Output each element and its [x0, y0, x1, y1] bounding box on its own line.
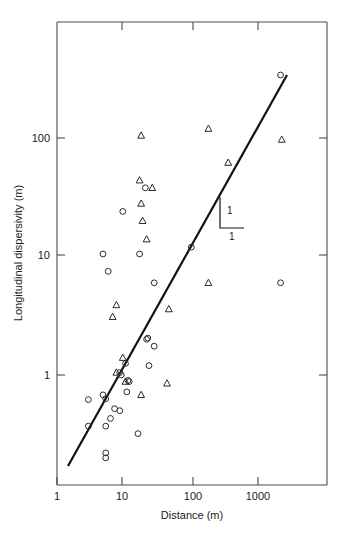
y-tick-label-1: 1 — [44, 369, 50, 381]
data-point-circle — [278, 72, 284, 78]
data-point-triangle — [278, 136, 285, 142]
scatter-plot: 1 10 100 1000 1 10 100 Distance (m) Long… — [0, 0, 344, 542]
data-point-circle — [146, 363, 152, 369]
data-point-triangle — [165, 305, 172, 311]
data-point-circle — [137, 251, 143, 257]
y-axis-ticks — [57, 138, 327, 375]
data-point-circle — [103, 423, 109, 429]
data-point-triangle — [164, 380, 171, 386]
data-point-triangle — [113, 301, 120, 307]
y-axis-title: Longitudinal dispersivity (m) — [12, 185, 24, 321]
data-point-circle — [142, 185, 148, 191]
data-point-circle — [85, 397, 91, 403]
data-point-triangle — [149, 184, 156, 190]
data-point-circle — [108, 416, 114, 422]
data-point-circle — [135, 431, 141, 437]
data-point-triangle — [138, 200, 145, 206]
data-point-circle — [100, 251, 106, 257]
data-point-triangle — [138, 132, 145, 138]
y-tick-label-100: 100 — [32, 132, 50, 144]
data-point-triangle — [139, 217, 146, 223]
figure-container: 1 10 100 1000 1 10 100 Distance (m) Long… — [0, 0, 344, 542]
data-point-circle — [120, 209, 126, 215]
x-tick-label-1000: 1000 — [246, 490, 270, 502]
data-point-circle — [124, 389, 130, 395]
data-point-circle — [151, 280, 157, 286]
data-point-triangle — [205, 279, 212, 285]
slope-triangle: 1 1 — [220, 197, 244, 242]
reference-trend-line — [68, 75, 287, 466]
data-point-circle — [117, 408, 123, 414]
data-point-circle — [151, 343, 157, 349]
x-axis-title: Distance (m) — [161, 509, 223, 521]
x-tick-label-100: 100 — [184, 490, 202, 502]
data-point-triangle — [225, 159, 232, 165]
slope-run-label: 1 — [229, 231, 235, 242]
y-tick-label-10: 10 — [38, 249, 50, 261]
slope-rise-label: 1 — [227, 205, 233, 216]
data-point-triangle — [109, 313, 116, 319]
x-tick-label-10: 10 — [116, 490, 128, 502]
data-point-circle — [145, 335, 151, 341]
data-point-circle — [105, 268, 111, 274]
data-point-triangle — [205, 125, 212, 131]
data-point-triangle — [138, 391, 145, 397]
data-point-triangle — [119, 354, 126, 360]
x-tick-label-1: 1 — [54, 490, 60, 502]
data-point-circle — [278, 280, 284, 286]
caption-strip — [0, 534, 344, 542]
x-axis-ticks — [57, 22, 258, 485]
data-point-triangle — [136, 177, 143, 183]
data-point-triangle — [143, 236, 150, 242]
